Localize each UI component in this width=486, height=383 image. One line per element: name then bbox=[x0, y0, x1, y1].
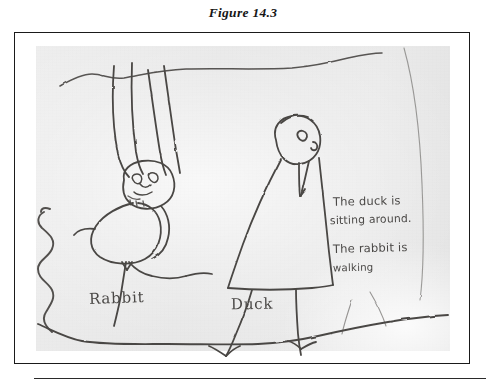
rabbit-label: Rabbit bbox=[89, 288, 145, 308]
figure-page: Figure 14.3 bbox=[0, 0, 486, 383]
figure-caption: Figure 14.3 bbox=[0, 5, 486, 21]
handwritten-note-line-3: The rabbit is bbox=[333, 242, 408, 255]
duck-label: Duck bbox=[231, 295, 274, 314]
bottom-divider bbox=[34, 378, 486, 379]
handwritten-note-line-2: sitting around. bbox=[330, 214, 412, 227]
handwritten-note-line-4: walking bbox=[333, 263, 374, 274]
handwritten-note-line-1: The duck is bbox=[333, 195, 401, 208]
